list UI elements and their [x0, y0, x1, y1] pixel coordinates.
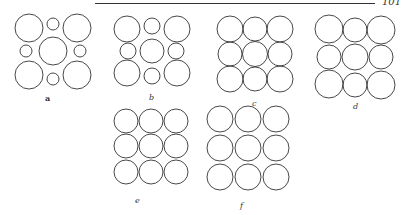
label-f: f — [240, 201, 243, 210]
label-d: d — [353, 102, 358, 111]
figure-e — [114, 109, 188, 184]
label-b: b — [149, 93, 154, 102]
figure-b — [114, 16, 190, 86]
figure-c — [217, 16, 293, 92]
figure-a — [15, 14, 91, 89]
label-a: a — [45, 93, 50, 103]
figure-f — [207, 106, 289, 190]
label-c: c — [252, 99, 256, 108]
label-e: e — [135, 196, 140, 205]
figure-d — [315, 15, 395, 99]
packing-diagrams — [0, 0, 409, 215]
